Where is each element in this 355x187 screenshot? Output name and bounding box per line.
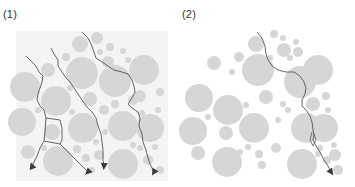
aggregate-particle — [10, 72, 40, 102]
aggregate-particle — [129, 55, 159, 85]
aggregate-particle — [331, 142, 337, 148]
aggregate-particle — [43, 146, 73, 176]
aggregate-particle — [137, 145, 143, 151]
aggregate-particle — [108, 111, 138, 141]
aggregate-particle — [322, 92, 330, 100]
aggregate-particle — [21, 145, 35, 159]
aggregate-particle — [93, 139, 99, 145]
aggregate-particle — [41, 63, 55, 77]
aggregate-particle — [69, 109, 75, 115]
aggregate-particle — [139, 110, 145, 116]
aggregate-particle — [259, 90, 273, 104]
aggregate-particle — [207, 56, 221, 70]
aggregate-particle — [258, 161, 266, 169]
diagram-canvas — [0, 0, 355, 187]
aggregate-particle — [125, 57, 131, 63]
aggregate-particle — [156, 166, 164, 174]
aggregate-particle — [91, 32, 103, 44]
aggregate-particle — [72, 36, 88, 52]
aggregate-particle — [205, 114, 211, 120]
aggregate-particle — [306, 97, 320, 111]
aggregate-particle — [179, 117, 207, 145]
aggregate-particle — [156, 88, 164, 96]
aggregate-particle — [320, 120, 330, 130]
aggregate-particle — [287, 149, 317, 179]
aggregate-particle — [106, 43, 114, 51]
aggregate-particle — [293, 39, 299, 45]
aggregate-particle — [280, 101, 286, 107]
aggregate-particle — [317, 145, 323, 151]
aggregate-particle — [229, 69, 235, 75]
aggregate-particle — [44, 124, 60, 140]
aggregate-particle — [237, 149, 243, 155]
aggregate-particle — [8, 108, 36, 136]
aggregate-particle — [243, 102, 249, 108]
aggregate-particle — [152, 144, 158, 150]
aggregate-particle — [82, 154, 90, 162]
aggregate-particle — [270, 30, 278, 38]
aggregate-particle — [277, 43, 291, 57]
aggregate-particle — [333, 165, 343, 175]
aggregate-particle — [41, 86, 71, 116]
aggregate-particle — [62, 53, 70, 61]
aggregate-particle — [234, 52, 244, 62]
panel-2 — [179, 30, 343, 179]
aggregate-particle — [248, 36, 264, 52]
aggregate-particle — [303, 55, 333, 85]
aggregate-particle — [102, 129, 108, 135]
aggregate-particle — [94, 150, 104, 160]
aggregate-particle — [293, 47, 303, 57]
aggregate-particle — [111, 100, 119, 108]
aggregate-particle — [130, 142, 136, 148]
aggregate-particle — [255, 150, 263, 158]
aggregate-particle — [213, 95, 243, 125]
aggregate-particle — [41, 145, 47, 151]
aggregate-particle — [191, 146, 205, 160]
panel-1 — [8, 31, 168, 181]
aggregate-particle — [185, 84, 213, 112]
aggregate-particle — [219, 126, 233, 140]
aggregate-particle — [99, 105, 109, 115]
aggregate-particle — [245, 144, 251, 150]
aggregate-particle — [275, 117, 281, 123]
aggregate-particle — [108, 149, 138, 179]
aggregate-particle — [280, 35, 286, 41]
aggregate-particle — [287, 55, 293, 61]
aggregate-particle — [239, 113, 269, 143]
aggregate-particle — [271, 143, 281, 153]
aggregate-particle — [35, 107, 41, 113]
aggregate-particle — [155, 107, 161, 113]
aggregate-particle — [68, 113, 98, 143]
aggregate-particle — [73, 145, 81, 153]
aggregate-particle — [66, 57, 98, 89]
aggregate-particle — [325, 107, 331, 113]
aggregate-particle — [285, 107, 291, 113]
aggregate-particle — [120, 48, 126, 54]
aggregate-particle — [97, 49, 103, 55]
